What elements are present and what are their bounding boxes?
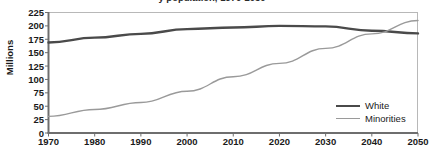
x-tick-label: 1970 — [27, 136, 71, 147]
x-tick-label: 1980 — [73, 136, 117, 147]
chart-legend: White Minorities — [336, 99, 420, 125]
x-tick-label: 2000 — [165, 136, 209, 147]
legend-label-white: White — [365, 100, 389, 111]
x-axis-tick-labels: 197019801990200020102020203020402050 — [0, 136, 424, 152]
x-tick-label: 2030 — [304, 136, 348, 147]
legend-line-icon-minorities — [336, 118, 360, 119]
x-tick-label: 2010 — [211, 136, 255, 147]
legend-item-white[interactable]: White — [336, 99, 420, 112]
series-line-white — [49, 26, 419, 43]
legend-label-minorities: Minorities — [365, 113, 406, 124]
x-tick-label: 2020 — [257, 136, 301, 147]
x-tick-label: 1990 — [119, 136, 163, 147]
legend-line-icon-white — [336, 105, 360, 107]
legend-item-minorities[interactable]: Minorities — [336, 112, 420, 125]
x-tick-label: 2050 — [396, 136, 433, 147]
x-tick-label: 2040 — [350, 136, 394, 147]
